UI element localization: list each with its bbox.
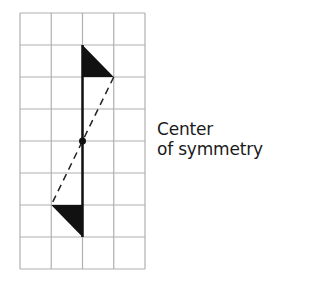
bottom-triangle bbox=[51, 205, 82, 237]
center-of-symmetry-point bbox=[79, 138, 86, 145]
top-triangle bbox=[83, 45, 114, 77]
center-label-line1: Center bbox=[157, 119, 213, 139]
center-label-line2: of symmetry bbox=[157, 139, 263, 159]
